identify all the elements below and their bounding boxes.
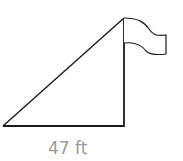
triangle-figure [0,0,183,161]
base-length-label: 47 ft [48,138,87,158]
flag-icon [124,18,166,55]
hypotenuse-line [3,18,124,126]
